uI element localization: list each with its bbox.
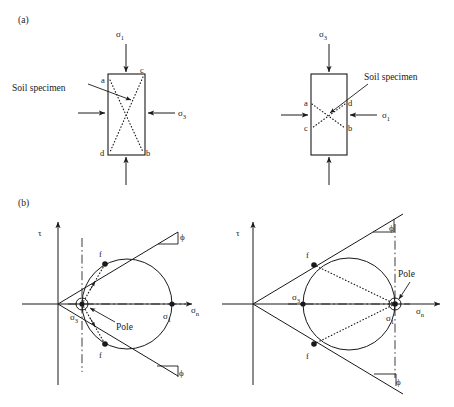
right-specimen-corner-c: c	[304, 123, 308, 133]
mohr-left-failure-point-upper	[102, 261, 108, 267]
soil-failure-plane-mohr-figure: (a) σ1 σ3 a c d b Soil spec	[0, 0, 454, 407]
left-specimen-corner-c: c	[140, 65, 144, 75]
mohr-right-sigma3-point	[300, 301, 305, 306]
left-specimen-corner-a: a	[101, 75, 105, 85]
mohr-right-failure-point-lower-label: f	[306, 351, 309, 361]
right-specimen-callout-label: Soil specimen	[364, 72, 418, 82]
mohr-right-phi-upper-label: ϕ	[389, 223, 394, 233]
figure-root: (a) σ1 σ3 a c d b Soil spec	[0, 0, 454, 407]
left-specimen-corner-b: b	[146, 148, 150, 158]
mohr-left-failure-point-lower	[102, 341, 108, 347]
mohr-left-phi-lower-label: ϕ	[179, 368, 184, 378]
mohr-left-failure-point-lower-label: f	[99, 350, 102, 360]
mohr-left-pole-label: Pole	[116, 322, 133, 332]
mohr-right-failure-point-upper-label: f	[306, 250, 309, 260]
mohr-left-sigma1-point	[169, 301, 174, 306]
left-specimen-callout-label: Soil specimen	[12, 83, 66, 93]
panel-a-label: (a)	[18, 15, 29, 26]
panel-b-label: (b)	[18, 198, 29, 209]
mohr-right-phi-lower-label: ϕ	[396, 377, 401, 387]
mohr-right-pole-label: Pole	[398, 269, 415, 279]
mohr-left-tau-axis-label: τ	[38, 228, 42, 238]
mohr-left-phi-upper-label: ϕ	[180, 232, 185, 242]
canvas-background	[0, 0, 454, 407]
right-specimen-corner-a: a	[304, 98, 308, 108]
right-specimen-corner-b: b	[348, 123, 352, 133]
mohr-left-failure-point-upper-label: f	[99, 249, 102, 259]
mohr-right-tau-axis-label: τ	[236, 228, 240, 238]
